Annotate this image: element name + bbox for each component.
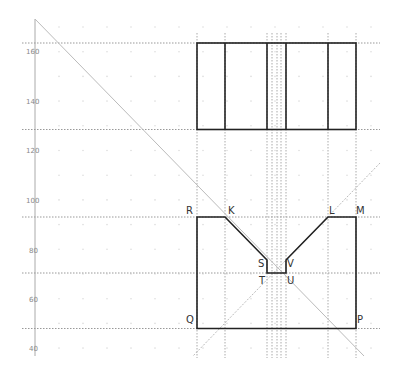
y-tick-40: 40 (29, 345, 38, 353)
label-R: R (186, 205, 193, 216)
diagram-canvas: 160 140 120 100 80 60 40 R K L M S V T U… (0, 0, 398, 377)
dot-grid (58, 26, 372, 349)
label-M: M (356, 205, 365, 216)
y-tick-100: 100 (26, 197, 39, 205)
y-tick-60: 60 (29, 296, 38, 304)
label-S: S (258, 258, 264, 269)
label-U: U (287, 275, 294, 286)
y-tick-160: 160 (26, 48, 39, 56)
y-tick-140: 140 (26, 98, 39, 106)
horizontal-guides (22, 43, 380, 329)
label-Q: Q (186, 314, 194, 325)
label-V: V (287, 258, 294, 269)
y-tick-120: 120 (26, 147, 39, 155)
vertical-guides (197, 33, 356, 358)
label-T: T (258, 275, 266, 286)
top-view (197, 43, 356, 130)
label-P: P (357, 314, 363, 325)
y-tick-80: 80 (29, 247, 38, 255)
label-L: L (329, 205, 335, 216)
label-K: K (228, 205, 235, 216)
y-tick-labels: 160 140 120 100 80 60 40 (26, 48, 39, 353)
